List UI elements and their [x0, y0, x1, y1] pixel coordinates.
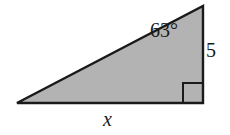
- base-length-label: x: [103, 109, 112, 129]
- angle-label: 63°: [150, 20, 178, 40]
- right-triangle-figure: [0, 0, 230, 135]
- vertical-side-label: 5: [206, 40, 216, 60]
